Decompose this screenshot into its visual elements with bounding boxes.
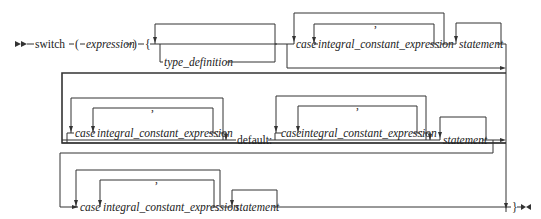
default-keyword: default: [237,134,272,146]
switch-syntax-diagram: switch ( expression ) { type_definition … [0,0,541,219]
comma-separator-1: , [374,17,377,30]
end-marker-icon [521,204,531,210]
colon-2: : [216,127,219,139]
type-definition-term: type_definition [164,56,233,69]
colon-3: : [420,127,423,139]
case-keyword-4: case [80,201,100,213]
comma-separator-4: , [155,173,158,186]
colon-1: : [437,38,440,50]
open-paren: ( [75,38,79,51]
statement-term-2: statement [443,134,488,146]
comma-separator-3: , [356,99,359,112]
switch-keyword: switch [35,38,65,50]
comma-separator-2: , [151,101,154,114]
open-brace: { [145,38,151,50]
close-paren: ) [133,38,137,51]
colon-4: : [216,201,219,213]
start-marker-icon [15,41,27,47]
close-brace: } [512,201,518,213]
